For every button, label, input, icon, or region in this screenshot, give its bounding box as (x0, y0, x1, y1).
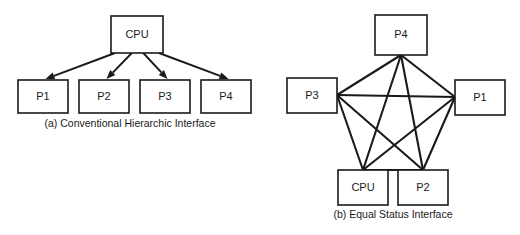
hierarchy-link-cpu-to-p3 (143, 53, 161, 72)
panel-b-node-label: P1 (473, 91, 486, 103)
panel-a-edge-layer (46, 53, 229, 79)
panel-a-node-label: P2 (97, 90, 110, 102)
panel-a-node-label: P4 (219, 90, 232, 102)
hierarchy-link-cpu-to-p4 (159, 53, 220, 76)
panel-a-node-label: CPU (125, 28, 148, 40)
peer-link-p4b-p1b (401, 55, 455, 97)
panel-b-node-label: P4 (394, 28, 407, 40)
diagram-canvas: CPUP1P2P3P4 P4P1P3CPUP2 (a) Conventional… (0, 0, 520, 235)
hierarchy-link-cpu-to-p2 (113, 53, 132, 73)
panel-b-node-layer: P4P1P3CPUP2 (287, 15, 505, 205)
peer-link-p4b-p3b (337, 55, 401, 95)
panel-a-node-layer: CPUP1P2P3P4 (18, 16, 251, 113)
panel-b-node-label: CPU (351, 181, 374, 193)
peer-link-p4b-cpub (363, 55, 401, 170)
panel-b-edge-layer (337, 55, 455, 170)
peer-link-p1b-p2b (423, 97, 455, 170)
arrowhead-icon (219, 72, 229, 79)
panel-b-node-label: P2 (416, 181, 429, 193)
multiprocessor-interface-diagram: CPUP1P2P3P4 P4P1P3CPUP2 (a) Conventional… (0, 0, 520, 235)
panel-b-node-label: P3 (305, 89, 318, 101)
peer-link-p1b-p3b (337, 95, 455, 97)
arrowhead-icon (46, 72, 56, 79)
panel-a-node-label: P1 (36, 90, 49, 102)
panel-a-node-label: P3 (158, 90, 171, 102)
panel-b-caption: (b) Equal Status Interface (333, 208, 452, 220)
hierarchy-link-cpu-to-p1 (54, 53, 115, 76)
panel-a-caption: (a) Conventional Hierarchic Interface (45, 117, 216, 129)
